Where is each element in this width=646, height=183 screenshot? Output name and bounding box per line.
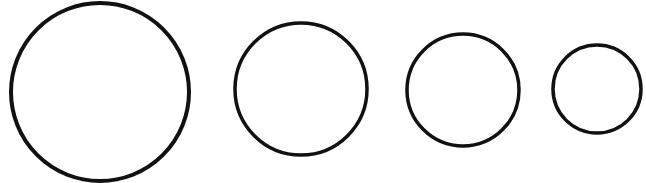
circles-diagram xyxy=(0,0,646,183)
circle-2 xyxy=(235,23,367,155)
circle-4-smallest xyxy=(553,45,641,133)
circle-3 xyxy=(407,34,519,146)
circle-1-largest xyxy=(11,3,189,181)
